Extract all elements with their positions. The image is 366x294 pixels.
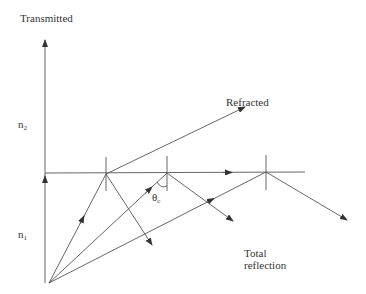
n1-label: n1 (18, 228, 27, 244)
critical-angle-arc (157, 182, 167, 187)
reflected-ray-1 (106, 174, 152, 245)
ray-diagram-graphics (0, 0, 366, 294)
critical-angle-label: θc (152, 191, 160, 207)
incident-ray-1 (49, 174, 106, 283)
incident-ray-3 (49, 172, 266, 283)
reflected-ray-2 (167, 173, 233, 221)
total-reflection-label: Total reflection (244, 247, 286, 271)
transmitted-label: Transmitted (20, 12, 73, 24)
refracted-label: Refracted (226, 96, 269, 108)
refracted-ray (106, 107, 245, 174)
n2-label: n2 (18, 118, 27, 134)
ray-diagram: Transmitted Refracted n2 n1 θc Total ref… (0, 0, 366, 294)
reflected-ray-3 (266, 172, 347, 220)
